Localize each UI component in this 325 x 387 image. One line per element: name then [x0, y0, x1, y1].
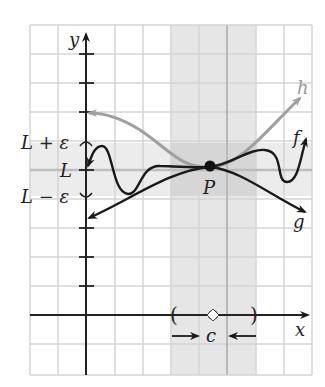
label-c: c: [206, 325, 216, 346]
label-L: L: [59, 160, 72, 181]
y-axis-label: y: [68, 29, 80, 50]
delta-band: [171, 25, 256, 375]
label-L-plus-epsilon: L + ε: [20, 132, 69, 153]
interval-left-paren: (: [170, 303, 178, 327]
interval-right-paren: ): [250, 303, 258, 327]
label-L-minus-epsilon: L − ε: [20, 186, 69, 207]
label-h: h: [297, 77, 309, 98]
point-p: [205, 161, 216, 172]
label-P: P: [202, 177, 216, 198]
axes: [30, 34, 308, 375]
squeeze-theorem-diagram: ( ) y x L + ε L L − ε P c h f g: [0, 0, 325, 387]
x-axis-label: x: [295, 319, 305, 340]
label-g: g: [293, 211, 305, 232]
